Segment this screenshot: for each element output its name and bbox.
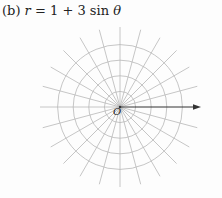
- radial-line: [63, 50, 120, 107]
- polar-axis-arrowhead: [193, 104, 201, 109]
- polar-grid-diagram: O: [0, 0, 222, 198]
- radial-line: [63, 107, 120, 164]
- radial-line: [120, 107, 177, 164]
- origin-label: O: [113, 106, 121, 117]
- radial-line: [120, 50, 177, 107]
